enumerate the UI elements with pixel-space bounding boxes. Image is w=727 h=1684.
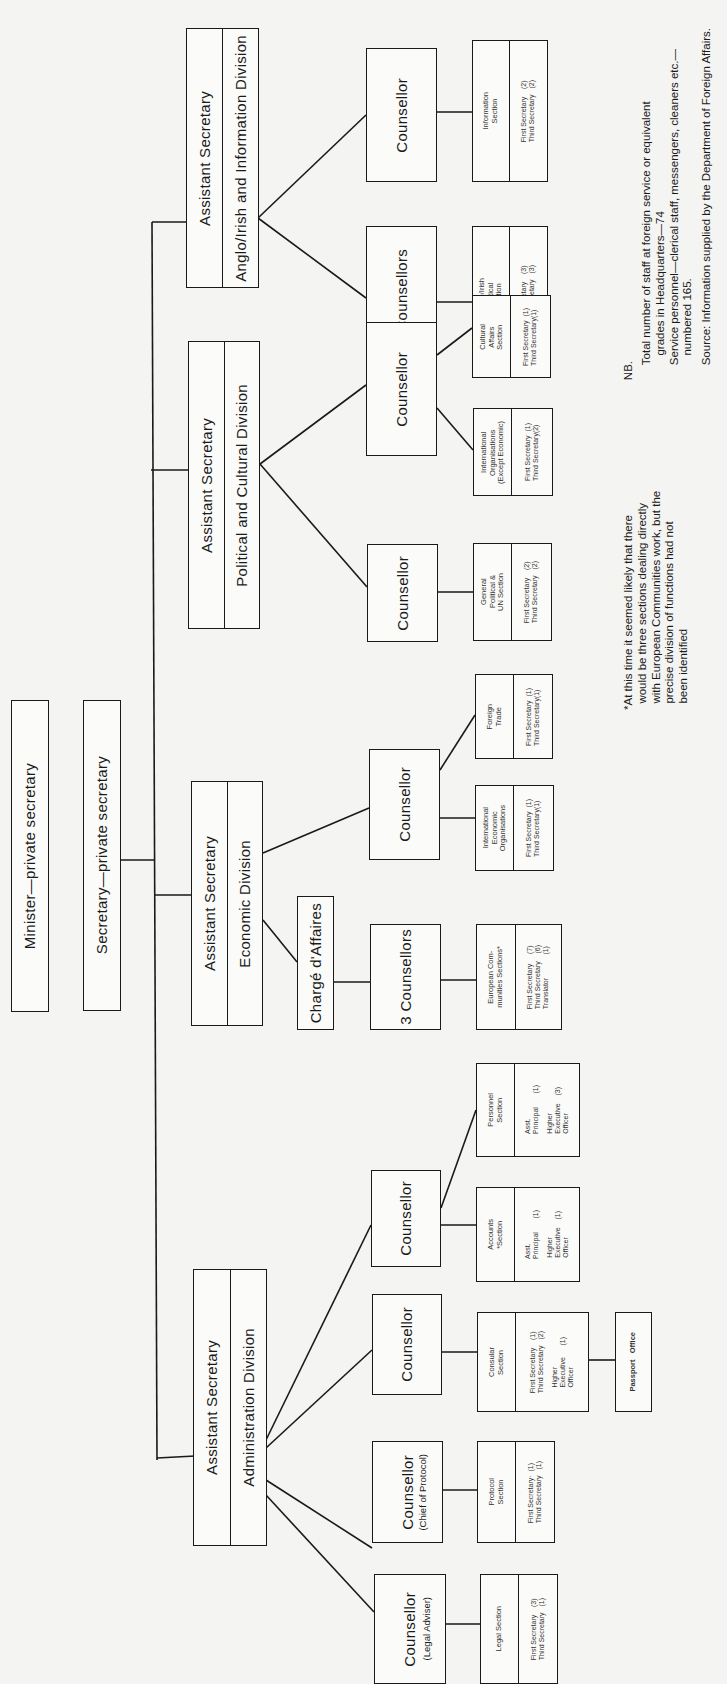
anglo-irish-division-box: Assistant Secretary Anglo/Irish and Info… (186, 28, 259, 288)
admin-division-box: Assistant Secretary Administration Divis… (193, 1269, 267, 1546)
legal-section-box: Legal Section First Secretary (3) Third … (480, 1574, 558, 1684)
section-staff: First Secretary (2) Third Secretary (2) (520, 80, 536, 142)
minister-box: Minister—private secretary (11, 700, 49, 1012)
counsellor-label: Counsellor (393, 352, 410, 427)
section-staff: First Secretary (3) Third Secretary (1) (530, 1598, 546, 1660)
section-name: Personnel Section (487, 1093, 504, 1127)
international-organisations-section-box: International Organisations (Except Econ… (473, 408, 553, 496)
division-name: Administration Division (240, 1328, 257, 1487)
protocol-section-box: Protocol Section First Secretary· (1) Th… (477, 1441, 555, 1543)
footnote-text: *At this time it seemed likely that ther… (622, 380, 691, 710)
personnel-section-box: Personnel Section Asst. Principal (1)Hig… (476, 1063, 580, 1157)
section-staff: First Secretary (1) Third Secretary(1) (525, 688, 541, 746)
section-name: European Com- munities Sections* (487, 946, 504, 1008)
counsellor-accounts-personnel-box: Counsellor (371, 1170, 441, 1267)
political-division-box: Assistant Secretary Political and Cultur… (188, 341, 260, 629)
counsellor-label: Counsellor (398, 1307, 415, 1382)
source-note: Source: Information supplied by the Depa… (700, 20, 720, 365)
section-name: Information Section (482, 92, 499, 130)
section-name: Protocol Section (488, 1478, 505, 1506)
counsellor-legal-box: Counsellor (Legal Adviser) (374, 1574, 446, 1684)
division-name: Economic Division (236, 840, 253, 968)
section-staff: First Secretary (1) Third Secretary(1) (525, 799, 541, 857)
counsellor-sublabel: (Chief of Protocol) (418, 1454, 429, 1531)
section-staff: Asst. Principal (1) (524, 1210, 540, 1259)
counsellor-label: Counsellor (397, 1181, 414, 1256)
secretary-label: Secretary—private secretary (93, 756, 110, 954)
division-head: Assistant Secretary (196, 91, 213, 226)
division-name: Political and Cultural Division (233, 384, 250, 587)
division-head: Assistant Secretary (203, 1340, 220, 1475)
counsellor-intl-cultural-box: Counsellor (366, 322, 437, 456)
section-staff: First Secretary (1) Third Secretary(2) (524, 423, 540, 481)
passport-office-box: Passport Office (615, 1312, 652, 1412)
footnote: *At this time it seemed likely that ther… (622, 380, 692, 710)
charge-label: Chargé d'Affaires (307, 903, 324, 1023)
general-political-un-section-box: General Political & UN Section First Sec… (473, 543, 552, 641)
counsellor-label: Counsellor (393, 78, 410, 153)
consular-section-box: Consular Section First Secretary (1) Thi… (477, 1312, 589, 1412)
secretary-box: Secretary—private secretary (83, 700, 121, 1011)
section-name: Consular Section (488, 1347, 505, 1377)
section-staff: First Secretary (7) Third Secretary (6) … (526, 945, 550, 1009)
nb-text: Total number of staff at foreign service… (640, 49, 695, 365)
section-staff: First Secretary· (1) Third Secretary (1) (527, 1461, 543, 1523)
section-staff: First Secretary (1) Third Secretary(1) (522, 308, 538, 366)
counsellor-sublabel: (Legal Adviser) (422, 1597, 433, 1660)
european-communities-section-box: European Com- munities Sections* First S… (476, 924, 562, 1030)
counsellor-label: Counsellor (396, 767, 413, 842)
counsellor-protocol-box: Counsellor (Chief of Protocol) (372, 1441, 443, 1543)
counsellor-economic-box: Counsellor (369, 749, 440, 860)
division-head: Assistant Secretary (201, 836, 218, 971)
counsellor-general-political-box: Counsellor (367, 544, 438, 642)
division-name: Anglo/Irish and Information Division (232, 35, 249, 282)
section-name: Foreign Trade (486, 704, 503, 729)
foreign-trade-section-box: Foreign Trade First Secretary (1) Third … (475, 674, 553, 759)
section-name: Accounts *Section (487, 1219, 504, 1250)
counsellor-consular-box: Counsellor (372, 1294, 442, 1395)
section-staff: First Secretary (1) Third Secretary (2) (529, 1331, 545, 1393)
section-name: Legal Section (495, 1606, 504, 1651)
counsellor-label: Counsellor (394, 556, 411, 631)
section-staff: Higher Executive (1) Officer (551, 1337, 575, 1388)
three-counsellors-box: 3 Counsellors (370, 924, 441, 1030)
nb-text-block: Total number of staff at foreign service… (640, 20, 695, 365)
counsellor-info-box: Counsellor (366, 48, 437, 182)
section-staff: Higher Executive (1) Officer (546, 1211, 570, 1258)
cultural-affairs-section-box: Cultural Affairs Section First Secretary… (472, 295, 551, 378)
section-staff: Higher Executive (3) Officer (546, 1087, 570, 1134)
section-name: Cultural Affairs Section (479, 324, 505, 350)
charge-daffaires-box: Chargé d'Affaires (297, 896, 334, 1030)
section-name: International Economic Organisations (482, 805, 508, 851)
section-name: General Political & UN Section (480, 573, 506, 611)
section-staff: Asst. Principal (1) (524, 1085, 540, 1134)
division-head: Assistant Secretary (198, 418, 215, 553)
accounts-section-box: Accounts *Section Asst. Principal (1)Hig… (476, 1187, 580, 1282)
economic-division-box: Assistant Secretary Economic Division (191, 781, 263, 1026)
international-economic-section-box: International Economic Organisations Fir… (475, 785, 554, 871)
source-text: Source: Information supplied by the Depa… (700, 28, 714, 365)
nb-label: NB. (622, 361, 636, 380)
section-name: International Organisations (Except Econ… (480, 421, 506, 484)
minister-label: Minister—private secretary (21, 763, 38, 949)
counsellor-label: 3 Counsellors (397, 929, 414, 1025)
information-section-box: Information Section First Secretary (2) … (472, 40, 548, 182)
section-staff: First Secretary (2) Third Secretary (2) (523, 561, 539, 623)
section-name: Passport Office (629, 1332, 638, 1392)
